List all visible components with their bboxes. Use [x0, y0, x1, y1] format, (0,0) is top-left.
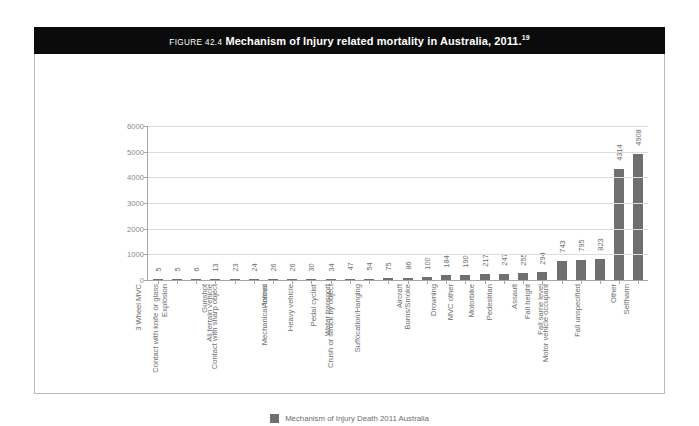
x-axis-category-label: Suffocation/Hanging: [353, 284, 362, 352]
y-axis-tick-label: 6000: [127, 122, 144, 131]
x-label-slot: Fall unspecified: [589, 282, 608, 392]
y-axis-tick-mark: [144, 203, 148, 204]
y-axis-tick-label: 4000: [127, 173, 144, 182]
gridline: [148, 229, 648, 230]
y-axis-tick-mark: [144, 126, 148, 127]
figure-title: FIGURE 42.4 Mechanism of Injury related …: [169, 34, 529, 47]
chart-plot-wrapper: 5561323242626303447547586100184190217247…: [107, 126, 647, 280]
bar-value-label: 100: [422, 257, 431, 269]
x-axis-category-labels: 3 Wheel MVCExplosionContact with knife o…: [147, 282, 647, 392]
bar-value-label: 26: [288, 263, 297, 271]
figure-title-text: Mechanism of Injury related mortality in…: [225, 35, 529, 47]
x-label-slot: Explosion: [166, 282, 185, 392]
x-axis-category-label: Drowning: [429, 284, 438, 316]
x-axis-category-label: Other: [609, 284, 618, 303]
y-axis-tick-label: 2000: [127, 224, 144, 233]
gridline: [148, 254, 648, 255]
x-axis-category-label: MVC other: [446, 284, 455, 320]
x-axis-category-label: Fall height: [524, 284, 533, 319]
x-axis-category-label: Assault: [510, 284, 519, 309]
x-axis-category-label: Crush or struck by object: [326, 284, 335, 368]
gridline: [148, 152, 648, 153]
bar-value-label: 34: [326, 263, 335, 271]
figure-title-superscript: 19: [522, 34, 530, 41]
y-axis-tick-mark: [144, 254, 148, 255]
bar-value-label: 4908: [634, 130, 643, 146]
bar-value-label: 24: [249, 263, 258, 271]
x-axis-category-label: 3 Wheel MVC: [133, 284, 142, 331]
chart-plot-area: 5561323242626303447547586100184190217247…: [147, 126, 648, 281]
bar-value-label: 26: [269, 263, 278, 271]
x-axis-category-label: Contact with sharp object: [210, 284, 219, 369]
gridline: [148, 177, 648, 178]
y-axis-tick-mark: [144, 177, 148, 178]
bar[interactable]: [595, 259, 605, 280]
legend-label: Mechanism of Injury Death 2011 Australia: [285, 414, 429, 423]
y-axis-tick-mark: [144, 280, 148, 281]
y-axis-tick-mark: [144, 152, 148, 153]
x-axis-category-label: Motor vehicle occupant: [541, 284, 550, 362]
figure-page: FIGURE 42.4 Mechanism of Injury related …: [0, 0, 699, 426]
figure-frame: 5561323242626303447547586100184190217247…: [34, 54, 665, 394]
x-axis-category-label: Mechanical forces: [261, 284, 270, 345]
x-axis-category-label: Pedal cyclist: [309, 284, 318, 326]
x-axis-category-label: Burns/Smoke: [403, 284, 412, 330]
x-axis-category-label: Selfharm: [622, 284, 631, 314]
figure-number: FIGURE 42.4: [169, 38, 222, 47]
bar-value-label: 4314: [615, 145, 624, 161]
x-axis-category-label: Fall unspecified: [573, 284, 582, 337]
y-axis-tick-label: 3000: [127, 199, 144, 208]
bar-value-label: 5: [172, 267, 181, 271]
bar-value-label: 23: [230, 263, 239, 271]
bar-value-label: 184: [442, 255, 451, 267]
y-axis-tick-mark: [144, 229, 148, 230]
y-axis-tick-label: 1000: [127, 250, 144, 259]
y-axis-tick-label: 5000: [127, 147, 144, 156]
x-axis-category-label: Explosion: [159, 284, 168, 317]
gridline: [148, 126, 648, 127]
x-label-slot: All terrain vehicle: [224, 282, 243, 392]
bar[interactable]: [557, 261, 567, 280]
x-axis-category-label: Contact with knife or glass: [151, 284, 160, 373]
x-axis-category-label: Pedestrian: [485, 284, 494, 320]
bar-value-label: 823: [596, 239, 605, 251]
chart-legend: Mechanism of Injury Death 2011 Australia: [35, 414, 664, 423]
x-axis-category-label: Heavy vehicle: [287, 284, 296, 331]
bar[interactable]: [537, 272, 547, 280]
bar-value-label: 75: [384, 262, 393, 270]
bar[interactable]: [614, 169, 624, 280]
bar-value-label: 54: [365, 263, 374, 271]
gridline: [148, 203, 648, 204]
x-label-slot: Selfharm: [628, 282, 647, 392]
legend-swatch-icon: [270, 414, 279, 423]
x-label-slot: Fall same level: [551, 282, 570, 392]
bar-value-label: 795: [576, 239, 585, 251]
bar-value-label: 30: [307, 263, 316, 271]
figure-title-banner: FIGURE 42.4 Mechanism of Injury related …: [34, 27, 665, 54]
bar-value-label: 743: [557, 241, 566, 253]
x-axis-category-label: Motorbike: [467, 284, 476, 317]
bar-value-label: 13: [211, 263, 220, 271]
bar-value-label: 190: [461, 255, 470, 267]
bar-value-label: 217: [480, 254, 489, 266]
bar-value-label: 86: [403, 262, 412, 270]
bar-value-label: 5: [153, 267, 162, 271]
bar-value-label: 6: [192, 267, 201, 271]
bar[interactable]: [633, 154, 643, 280]
bar[interactable]: [576, 260, 586, 280]
bar-value-label: 47: [345, 263, 354, 271]
